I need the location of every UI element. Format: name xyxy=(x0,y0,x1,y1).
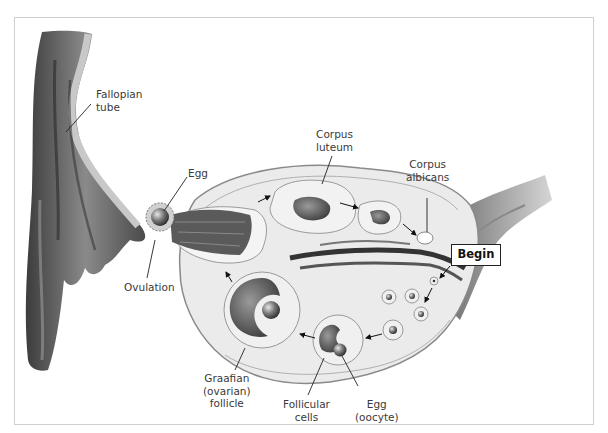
graafian-follicle-structure xyxy=(224,272,300,348)
ovary-illustration xyxy=(0,0,608,433)
secondary-follicle-structure xyxy=(313,315,363,365)
ovulated-egg xyxy=(146,203,174,231)
begin-callout: Begin xyxy=(451,244,501,266)
fallopian-tube xyxy=(26,31,145,371)
corpus-albicans-structure xyxy=(417,232,433,244)
corpus-luteum-structure xyxy=(270,180,356,233)
label-graafian-follicle: Graafian (ovarian) follicle xyxy=(203,372,251,410)
regressing-corpus-luteum xyxy=(358,201,401,234)
label-fallopian-tube: Fallopian tube xyxy=(96,88,142,113)
label-egg-oocyte: Egg (oocyte) xyxy=(355,398,399,423)
label-follicular-cells: Follicular cells xyxy=(283,398,330,423)
label-corpus-albicans: Corpus albicans xyxy=(406,158,449,183)
label-ovulation: Ovulation xyxy=(124,281,175,294)
label-corpus-luteum: Corpus luteum xyxy=(316,128,353,153)
label-egg: Egg xyxy=(188,167,208,180)
